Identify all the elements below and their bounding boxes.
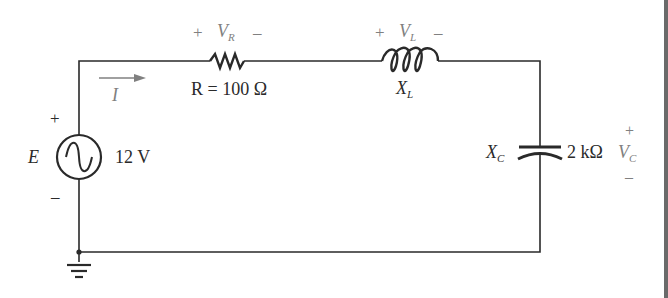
resistor-icon [210, 54, 244, 68]
source-plus: + [50, 110, 60, 127]
circuit-diagram: + E 12 V – I + VR – R = 100 Ω + VL – XL … [0, 0, 668, 298]
page-edge [664, 0, 668, 298]
inductor-reactance: XL [396, 79, 413, 97]
vc-label: VC [618, 143, 636, 161]
vr-plus: + [193, 24, 203, 41]
vl-plus: + [375, 24, 385, 41]
resistor-label: R = 100 Ω [191, 80, 267, 98]
vr-label: VR [217, 22, 235, 40]
source-symbol: E [28, 148, 39, 166]
source-value: 12 V [115, 148, 150, 166]
vl-minus: – [434, 24, 443, 41]
capacitor-reactance: XC [486, 143, 504, 161]
vr-minus: – [253, 24, 262, 41]
capacitor-value: 2 kΩ [567, 143, 603, 161]
current-arrow-icon [99, 74, 146, 82]
ground-node [76, 249, 81, 254]
current-symbol: I [112, 86, 118, 104]
inductor-icon [382, 48, 438, 71]
source-minus: – [51, 188, 60, 205]
ac-sine-icon [66, 143, 92, 172]
ground-icon [67, 265, 91, 277]
vc-plus: + [625, 123, 634, 139]
vl-label: VL [399, 22, 416, 40]
vc-minus: – [625, 169, 633, 185]
